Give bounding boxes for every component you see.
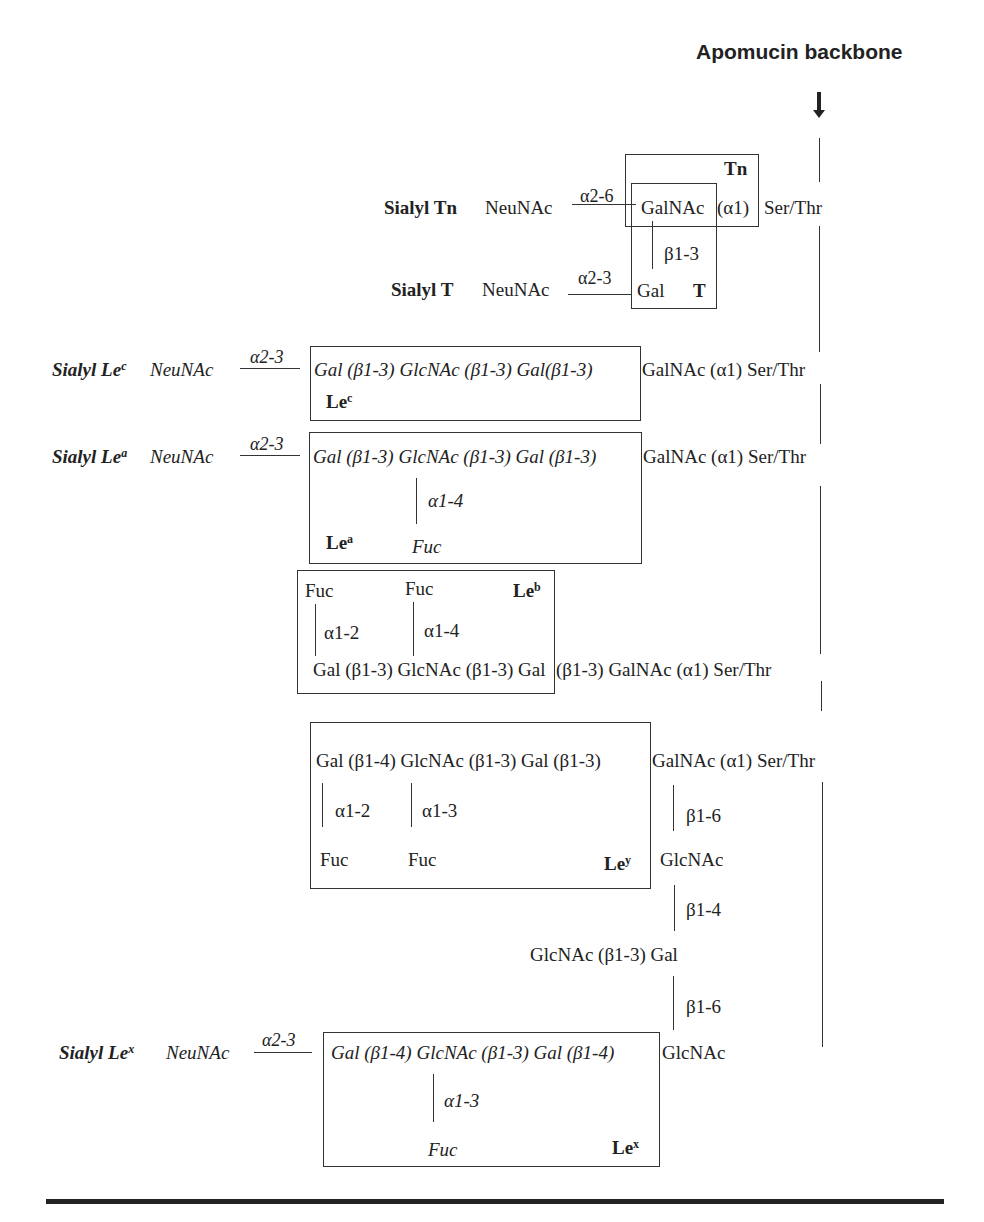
sialyl-lea-linkage: α2-3 [250,433,283,455]
lea-fuc-linkage: α1-4 [428,490,463,512]
branch1-bond [673,785,674,831]
ley-chain: Gal (β1-4) GlcNAc (β1-3) Gal (β1-3) [316,750,601,772]
leb-box-label: Leb [513,580,541,602]
branch1-linkage: β1-6 [686,805,721,827]
branch3-bond [673,976,674,1030]
lec-box-label: Lec [326,391,352,413]
lex-chain: Gal (β1-4) GlcNAc (β1-3) Gal (β1-4) [331,1042,614,1064]
leb-link-2: α1-4 [424,620,459,642]
sialyl-lec-bond [240,368,300,369]
lea-tail: GalNAc (α1) Ser/Thr [643,446,806,468]
lec-box [310,346,641,421]
lea-chain: Gal (β1-3) GlcNAc (β1-3) Gal (β1-3) [313,446,596,468]
ley-fuc-1: Fuc [320,849,349,871]
backbone-line [820,384,821,444]
sialyl-t-label: Sialyl T [391,279,453,301]
lex-fuc: Fuc [428,1139,458,1161]
leb-fuc-2: Fuc [405,578,434,600]
branch2-linkage: β1-4 [686,899,721,921]
ley-fuc1-bond [322,783,323,827]
t-beta-linkage: β1-3 [664,243,699,265]
backbone-line [820,486,821,654]
diagram-title: Apomucin backbone [696,40,903,64]
ley-fuc2-bond [411,783,412,827]
leb-fuc2-bond [413,602,414,656]
leb-tail: (β1-3) GalNAc (α1) Ser/Thr [556,659,771,681]
sialyl-lex-linkage: α2-3 [262,1029,295,1051]
branch3-linkage: β1-6 [686,996,721,1018]
lea-fuc-bond [416,478,417,524]
leb-link-1: α1-2 [324,622,359,644]
tn-ser-thr: Ser/Thr [764,197,822,219]
sialyl-t-neunac: NeuNAc [482,279,550,301]
backbone-line [821,681,822,711]
branch2-sugar: GlcNAc (β1-3) Gal [530,944,678,966]
t-gal: Gal [637,280,664,302]
lex-box-label: Lex [612,1137,639,1159]
ley-fuc-2: Fuc [408,849,437,871]
tn-galnac: GalNAc [641,197,704,219]
sialyl-lea-bond [240,455,300,456]
lea-fuc: Fuc [412,536,442,558]
lex-fuc-linkage: α1-3 [444,1090,479,1112]
sialyl-lex-neunac: NeuNAc [166,1042,229,1064]
sialyl-t-linkage: α2-3 [578,267,611,289]
down-arrow-head-icon [813,110,825,118]
sialyl-lea-neunac: NeuNAc [150,446,213,468]
backbone-line [819,138,820,182]
tn-box-label: Tn [724,158,747,180]
ley-link-2: α1-3 [422,800,457,822]
leb-fuc1-bond [315,604,316,656]
branch1-glcnac: GlcNAc [660,849,723,871]
sialyl-lec-neunac: NeuNAc [150,359,213,381]
sialyl-t-bond [568,294,632,295]
lec-tail: GalNAc (α1) Ser/Thr [642,359,805,381]
tn-alpha1: (α1) [717,197,749,219]
leb-fuc-1: Fuc [305,580,334,602]
sialyl-tn-neunac: NeuNAc [485,197,553,219]
sialyl-lec-linkage: α2-3 [250,346,283,368]
sialyl-lex-label: Sialyl Lex [59,1042,134,1064]
leb-chain: Gal (β1-3) GlcNAc (β1-3) Gal [313,659,545,681]
lec-chain: Gal (β1-3) GlcNAc (β1-3) Gal(β1-3) [314,359,592,381]
sialyl-lec-label: Sialyl Lec [52,359,126,381]
backbone-line [819,226,820,352]
lex-fuc-bond [433,1074,434,1122]
ley-box-label: Ley [604,853,631,875]
sialyl-lex-bond [254,1052,312,1053]
ley-tail: GalNAc (α1) Ser/Thr [652,750,815,772]
sialyl-lea-label: Sialyl Lea [52,446,127,468]
branch2-bond [674,885,675,931]
sialyl-tn-label: Sialyl Tn [384,197,457,219]
t-box-label: T [693,280,706,302]
bottom-rule [46,1199,944,1204]
lex-tail: GlcNAc [662,1042,725,1064]
backbone-line [822,782,823,1047]
t-bond [652,221,653,269]
ley-link-1: α1-2 [335,800,370,822]
lea-box-label: Lea [326,532,353,554]
